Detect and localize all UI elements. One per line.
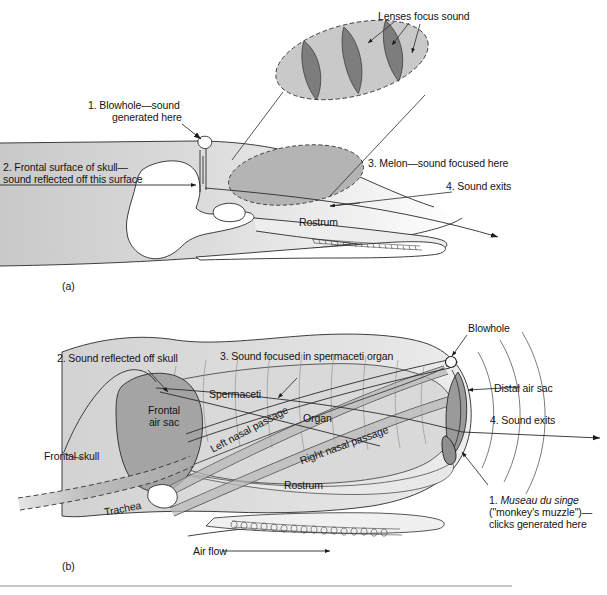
label-frontal-surface-line2: sound reflected off this surface [3,173,143,186]
label-air-flow: Air flow [193,545,227,558]
label-museau-line2: ("monkey's muzzle")— [489,506,592,519]
label-rostrum-a: Rostrum [299,216,338,229]
panel-a-artwork [0,6,498,266]
label-melon: 3. Melon—sound focused here [368,157,508,170]
label-blowhole-line2: generated here [112,111,182,124]
label-frontal-air-sac-line2: air sac [136,416,192,429]
label-organ: Organ [303,412,332,425]
label-rostrum-b: Rostrum [284,479,323,492]
label-sound-reflected-off-skull: 2. Sound reflected off skull [57,352,178,365]
label-sound-exits-a: 4. Sound exits [446,180,511,193]
label-museau-line1: 1. Museau du singe [489,494,607,507]
label-blowhole-line1: 1. Blowhole—sound [88,99,180,112]
label-sound-focused-spermaceti: 3. Sound focused in spermaceti organ [220,350,393,363]
blowhole-shape-b [446,357,457,368]
blowhole-leader-a [182,124,201,139]
label-frontal-air-sac-line1: Frontal [136,404,192,417]
label-lenses-focus-sound: Lenses focus sound [378,10,470,23]
figure-root: Lenses focus sound 1. Blowhole—sound gen… [0,0,607,595]
museau-italic-term: Museau du singe [500,494,578,506]
museau-number: 1. [489,494,500,506]
panel-caption-a: (a) [62,280,75,292]
panel-caption-b: (b) [62,560,75,572]
label-blowhole-b: Blowhole [468,322,510,335]
label-frontal-skull: Frontal skull [44,450,99,463]
label-distal-air-sac: Distal air sac [494,382,553,395]
label-sound-exits-b: 4. Sound exits [490,414,555,427]
sound-wave-arcs [478,332,545,494]
label-museau-line3: clicks generated here [489,518,587,531]
dolphin-eye-socket [213,203,245,221]
label-frontal-surface-line1: 2. Frontal surface of skull— [3,161,128,174]
label-spermaceti: Spermaceti [209,388,261,401]
